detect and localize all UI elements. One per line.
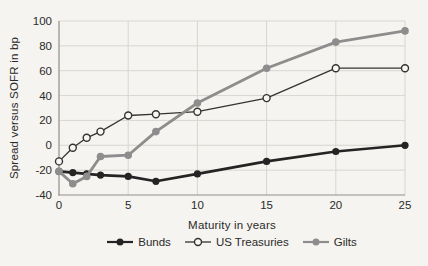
series-bunds-point xyxy=(69,169,76,176)
series-bunds-point xyxy=(263,158,270,165)
legend-label-bunds: Bunds xyxy=(138,236,171,248)
series-gilts-point xyxy=(69,180,77,188)
y-tick-label-80: 80 xyxy=(39,40,52,52)
x-axis-title: Maturity in years xyxy=(59,219,405,231)
y-tick-label-0: 0 xyxy=(46,139,52,151)
series-us-treasuries-point xyxy=(83,134,90,141)
legend-dot-us-treasuries xyxy=(194,239,201,246)
series-gilts-point xyxy=(401,27,409,35)
series-us-treasuries-point xyxy=(194,108,201,115)
series-gilts-point xyxy=(194,99,202,107)
y-tick-label-60: 60 xyxy=(39,65,52,77)
series-us-treasuries-point xyxy=(152,111,159,118)
legend: BundsUS TreasuriesGilts xyxy=(59,236,405,248)
series-bunds-line xyxy=(59,145,405,181)
legend-label-us-treasuries: US Treasuries xyxy=(216,236,289,248)
legend-dot-bunds xyxy=(117,239,124,246)
series-gilts-point xyxy=(332,38,340,46)
x-tick-label-5: 5 xyxy=(125,199,131,211)
x-tick-label-15: 15 xyxy=(260,199,273,211)
series-us-treasuries-line xyxy=(59,68,405,161)
series-bunds-point xyxy=(401,142,408,149)
y-tick-label--20: -20 xyxy=(35,164,52,176)
series-us-treasuries-point xyxy=(402,65,409,72)
series-gilts-point xyxy=(152,128,160,136)
series-gilts-line xyxy=(59,31,405,184)
chart-figure: -40-200204060801000510152025 Spread vers… xyxy=(0,0,428,266)
legend-marker-gilts xyxy=(303,237,329,247)
series-us-treasuries-point xyxy=(97,128,104,135)
series-bunds-point xyxy=(152,178,159,185)
legend-item-us-treasuries: US Treasuries xyxy=(185,236,289,248)
series-bunds-point xyxy=(97,172,104,179)
series-gilts-point xyxy=(263,64,271,72)
series-gilts-point xyxy=(124,151,132,159)
x-tick-label-0: 0 xyxy=(56,199,62,211)
plot-area: -40-200204060801000510152025 xyxy=(0,0,428,216)
y-tick-label--40: -40 xyxy=(35,189,52,201)
series-gilts-point xyxy=(97,153,105,161)
legend-marker-bunds xyxy=(107,237,133,247)
series-bunds-point xyxy=(125,173,132,180)
y-axis-title: Spread versus SOFR in bp xyxy=(8,37,20,179)
legend-dot-gilts xyxy=(312,239,319,246)
series-bunds-point xyxy=(194,170,201,177)
series-bunds-point xyxy=(332,148,339,155)
x-tick-label-10: 10 xyxy=(191,199,204,211)
legend-item-bunds: Bunds xyxy=(107,236,171,248)
legend-label-gilts: Gilts xyxy=(334,236,357,248)
series-gilts-point xyxy=(83,173,91,181)
x-tick-label-20: 20 xyxy=(329,199,342,211)
y-tick-label-20: 20 xyxy=(39,114,52,126)
series-us-treasuries-point xyxy=(263,95,270,102)
y-tick-label-40: 40 xyxy=(39,90,52,102)
x-tick-label-25: 25 xyxy=(399,199,412,211)
series-gilts-point xyxy=(55,168,63,176)
y-tick-label-100: 100 xyxy=(33,15,52,27)
series-us-treasuries-point xyxy=(69,144,76,151)
series-us-treasuries-point xyxy=(332,65,339,72)
series-us-treasuries-point xyxy=(56,158,63,165)
legend-item-gilts: Gilts xyxy=(303,236,357,248)
series-us-treasuries-point xyxy=(125,112,132,119)
legend-marker-us-treasuries xyxy=(185,237,211,247)
